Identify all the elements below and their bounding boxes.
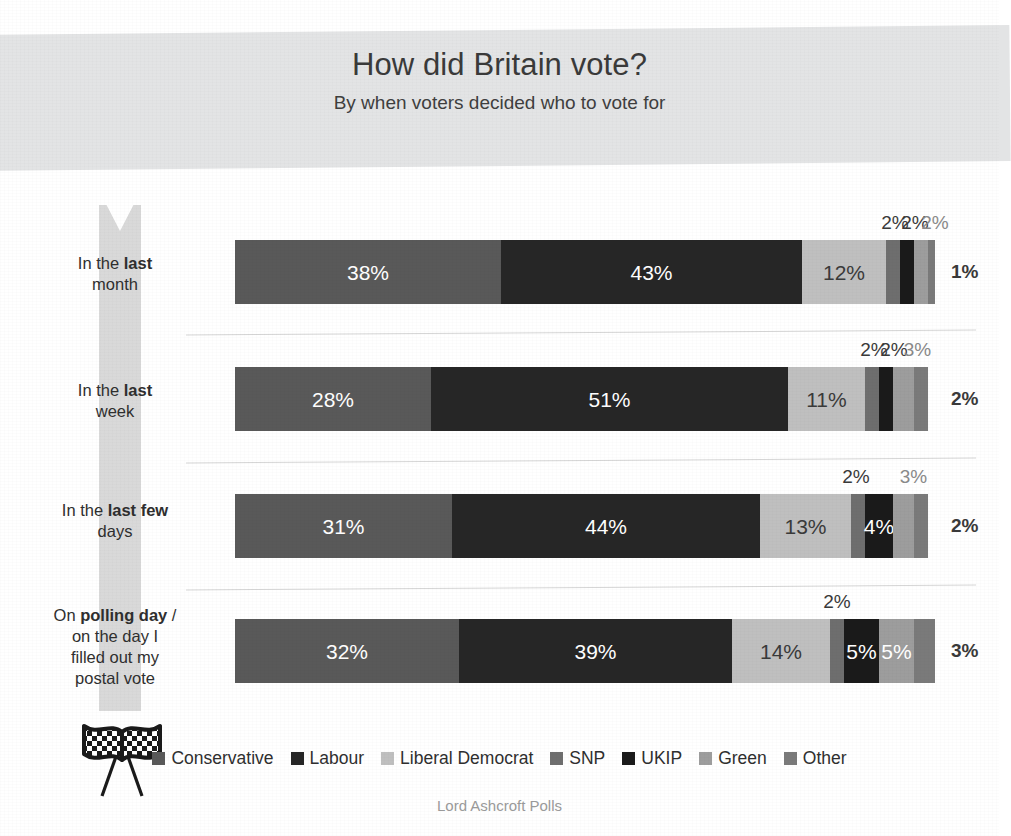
row-label: In the lastmonth [10, 253, 220, 295]
chart-legend: ConservativeLabourLiberal DemocratSNPUKI… [0, 748, 999, 769]
stacked-bar: 31%44%13%4% [235, 494, 935, 558]
segment-value-label: 5% [881, 641, 911, 662]
segment-value-label: 11% [806, 389, 846, 410]
bar-segment-ukip[interactable]: 4% [865, 494, 893, 558]
bar-segment-ukip[interactable] [879, 367, 893, 431]
segment-value-label-outside: 3% [951, 640, 978, 662]
bar-segment-liberal-democrat[interactable]: 14% [732, 619, 830, 683]
legend-swatch-icon [699, 752, 712, 765]
row-divider [186, 458, 976, 464]
segment-value-label-above: 3% [900, 466, 927, 488]
legend-item-ukip[interactable]: UKIP [622, 748, 682, 769]
bar-segment-snp[interactable] [851, 494, 865, 558]
legend-swatch-icon [381, 752, 394, 765]
row-label: On polling day /on the day Ifilled out m… [10, 605, 220, 689]
segment-value-label: 28% [312, 389, 354, 410]
legend-item-snp[interactable]: SNP [550, 748, 605, 769]
segment-value-label-above: 2% [823, 591, 850, 613]
legend-item-label: Labour [310, 748, 365, 769]
bar-segment-conservative[interactable]: 28% [235, 367, 431, 431]
row-label: In the lastweek [10, 380, 220, 422]
bar-segment-green[interactable] [893, 367, 914, 431]
segment-value-label: 44% [585, 516, 627, 537]
legend-swatch-icon [784, 752, 797, 765]
legend-item-label: Green [718, 748, 767, 769]
legend-swatch-icon [550, 752, 563, 765]
bar-segment-conservative[interactable]: 32% [235, 619, 459, 683]
row-divider [186, 330, 976, 336]
bar-segment-labour[interactable]: 43% [501, 240, 802, 304]
bar-segment-other[interactable] [914, 619, 935, 683]
segment-value-label: 13% [784, 516, 826, 537]
legend-swatch-icon [291, 752, 304, 765]
legend-item-label: SNP [569, 748, 605, 769]
segment-value-label-above: 3% [904, 339, 931, 361]
row-label: In the last fewdays [10, 500, 220, 542]
legend-item-liberal-democrat[interactable]: Liberal Democrat [381, 748, 533, 769]
segment-value-label-outside: 2% [951, 515, 978, 537]
legend-item-label: UKIP [641, 748, 682, 769]
stacked-bar: 28%51%11% [235, 367, 935, 431]
stacked-bar: 38%43%12% [235, 240, 935, 304]
segment-value-label: 14% [760, 641, 802, 662]
bar-segment-labour[interactable]: 51% [431, 367, 788, 431]
segment-value-label: 4% [864, 516, 894, 537]
legend-item-label: Liberal Democrat [400, 748, 533, 769]
bar-segment-conservative[interactable]: 31% [235, 494, 452, 558]
segment-value-label: 31% [322, 516, 364, 537]
bar-segment-snp[interactable] [886, 240, 900, 304]
segment-value-label-above: 2% [921, 212, 948, 234]
bar-segment-other[interactable] [928, 240, 935, 304]
bar-segment-ukip[interactable]: 5% [844, 619, 879, 683]
bar-segment-snp[interactable] [830, 619, 844, 683]
segment-value-label-outside: 1% [951, 261, 978, 283]
segment-value-label: 39% [574, 641, 616, 662]
segment-value-label-outside: 2% [951, 388, 978, 410]
bar-segment-green[interactable]: 5% [879, 619, 914, 683]
bar-segment-ukip[interactable] [900, 240, 914, 304]
legend-item-conservative[interactable]: Conservative [152, 748, 273, 769]
bar-segment-liberal-democrat[interactable]: 11% [788, 367, 865, 431]
segment-value-label: 43% [630, 262, 672, 283]
segment-value-label: 5% [846, 641, 876, 662]
legend-swatch-icon [152, 752, 165, 765]
legend-item-label: Conservative [171, 748, 273, 769]
segment-value-label: 12% [823, 262, 865, 283]
row-divider [186, 585, 976, 591]
bar-segment-other[interactable] [914, 367, 928, 431]
legend-item-other[interactable]: Other [784, 748, 847, 769]
bar-segment-green[interactable] [893, 494, 914, 558]
segment-value-label: 32% [326, 641, 368, 662]
legend-item-labour[interactable]: Labour [291, 748, 365, 769]
stacked-bar: 32%39%14%5%5% [235, 619, 935, 683]
segment-value-label: 38% [347, 262, 389, 283]
bar-segment-other[interactable] [914, 494, 928, 558]
bar-segment-green[interactable] [914, 240, 928, 304]
bar-segment-conservative[interactable]: 38% [235, 240, 501, 304]
legend-item-label: Other [803, 748, 847, 769]
bar-segment-liberal-democrat[interactable]: 12% [802, 240, 886, 304]
segment-value-label-above: 2% [842, 466, 869, 488]
legend-swatch-icon [622, 752, 635, 765]
bar-segment-snp[interactable] [865, 367, 879, 431]
legend-item-green[interactable]: Green [699, 748, 767, 769]
source-credit: Lord Ashcroft Polls [0, 797, 999, 814]
bar-segment-liberal-democrat[interactable]: 13% [760, 494, 851, 558]
segment-value-label: 51% [588, 389, 630, 410]
bar-segment-labour[interactable]: 39% [459, 619, 732, 683]
bar-segment-labour[interactable]: 44% [452, 494, 760, 558]
